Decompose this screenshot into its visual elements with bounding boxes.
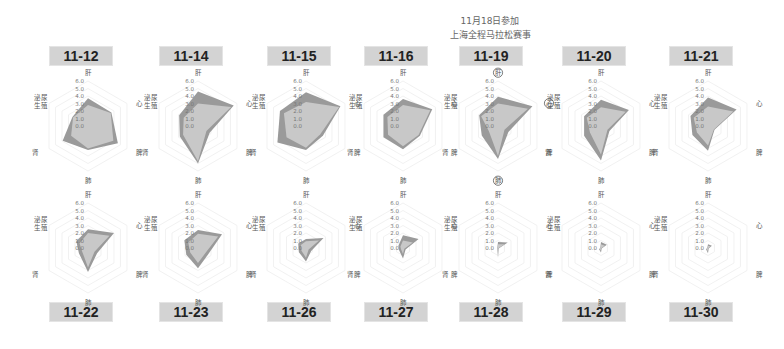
tick-label: 2.0 [695,108,704,114]
axis-label: 肺 [85,177,92,185]
tick-label: 4.0 [588,215,597,221]
axis-label-urogenital: 泌尿 [252,93,266,102]
axis-label: 肝 [400,69,407,77]
axis-label: 肺 [495,177,502,185]
axis-label-urogenital: 生殖 [144,223,158,232]
tick-label: 6.0 [588,78,597,84]
radar-chart: 6.05.04.03.02.01.00.0肝心脾肺肾泌尿生殖 [545,188,657,313]
axis-label: 肾 [142,148,149,157]
tick-label: 4.0 [185,215,194,221]
axis-label: 肝 [195,191,202,199]
axis-label: 肾 [545,148,552,157]
tick-label: 2.0 [695,230,704,236]
tick-label: 6.0 [75,78,84,84]
axis-label: 肝 [303,191,310,199]
annotation-line-2: 上海全程马拉松赛事 [430,28,550,42]
tick-label: 5.0 [588,86,597,92]
tick-label: 5.0 [695,86,704,92]
axis-label: 肝 [400,191,407,199]
panel-date-title: 11-21 [669,46,733,66]
radar-chart: 6.05.04.03.02.01.00.0肝心脾肺肾泌尿生殖 [142,188,254,313]
tick-label: 0.0 [75,245,84,251]
radar-panel: 11-286.05.04.03.02.01.00.0肝心脾肺肾泌尿生殖 [442,190,554,349]
tick-label: 5.0 [185,208,194,214]
axis-label-urogenital: 泌尿 [349,93,363,102]
tick-label: 6.0 [485,78,494,84]
panel-date-title: 11-15 [267,46,331,66]
tick-label: 1.0 [695,116,704,122]
axis-label: 心 [756,222,763,230]
axis-label-urogenital: 泌尿 [444,215,458,224]
tick-label: 3.0 [485,223,494,229]
tick-label: 3.0 [485,101,494,107]
axis-label-urogenital: 泌尿 [654,215,668,224]
axis-label-urogenital: 泌尿 [252,215,266,224]
tick-label: 3.0 [695,223,704,229]
tick-label: 1.0 [390,238,399,244]
radar-chart: 6.05.04.03.02.01.00.0肝心脾肺肾泌尿生殖 [652,66,764,191]
panel-date-title: 11-20 [562,46,626,66]
axis-label: 肾 [250,270,257,279]
radar-chart: 6.05.04.03.02.01.00.0肝心脾肺肾泌尿生殖 [442,66,554,191]
radar-panel: 11-266.05.04.03.02.01.00.0肝心脾肺肾泌尿生殖 [250,190,362,349]
axis-label: 肺 [195,299,202,307]
tick-label: 3.0 [695,101,704,107]
tick-label: 4.0 [293,93,302,99]
axis-label: 肺 [400,299,407,307]
tick-label: 5.0 [588,208,597,214]
tick-label: 1.0 [588,238,597,244]
axis-label: 肾 [32,270,39,279]
tick-label: 5.0 [185,86,194,92]
axis-label: 肺 [85,299,92,307]
tick-label: 2.0 [185,230,194,236]
radar-chart: 6.05.04.03.02.01.00.0肝心脾肺肾泌尿生殖 [32,66,144,191]
tick-label: 2.0 [485,230,494,236]
radar-panel: 11-226.05.04.03.02.01.00.0肝心脾肺肾泌尿生殖 [32,190,144,349]
tick-label: 3.0 [390,223,399,229]
axis-label: 肝 [705,69,712,77]
tick-label: 3.0 [75,101,84,107]
tick-label: 0.0 [695,245,704,251]
tick-label: 5.0 [485,208,494,214]
tick-label: 4.0 [695,93,704,99]
tick-label: 1.0 [588,116,597,122]
axis-label-urogenital: 生殖 [252,223,266,232]
tick-label: 6.0 [695,78,704,84]
tick-label: 4.0 [390,93,399,99]
tick-label: 3.0 [75,223,84,229]
tick-label: 4.0 [185,93,194,99]
tick-label: 4.0 [588,93,597,99]
radar-chart: 6.05.04.03.02.01.00.0肝心脾肺肾泌尿生殖 [545,66,657,191]
tick-label: 6.0 [75,200,84,206]
axis-label-urogenital: 生殖 [252,101,266,110]
tick-label: 1.0 [75,116,84,122]
radar-panel: 11-306.05.04.03.02.01.00.0肝心脾肺肾泌尿生殖 [652,190,764,349]
axis-label: 肾 [347,148,354,157]
tick-label: 4.0 [75,93,84,99]
tick-label: 5.0 [390,86,399,92]
axis-label-urogenital: 生殖 [349,101,363,110]
tick-label: 1.0 [390,116,399,122]
radar-panel: 11-296.05.04.03.02.01.00.0肝心脾肺肾泌尿生殖 [545,190,657,349]
tick-label: 2.0 [185,108,194,114]
axis-label: 肺 [495,299,502,307]
tick-label: 0.0 [75,123,84,129]
tick-label: 6.0 [588,200,597,206]
tick-label: 1.0 [695,238,704,244]
tick-label: 0.0 [695,123,704,129]
tick-label: 0.0 [390,245,399,251]
tick-label: 3.0 [588,223,597,229]
axis-label-urogenital: 泌尿 [547,215,561,224]
tick-label: 6.0 [485,200,494,206]
panel-date-title: 11-12 [49,46,113,66]
tick-label: 5.0 [75,208,84,214]
axis-label: 肾 [652,148,659,157]
axis-label-urogenital: 泌尿 [547,93,561,102]
axis-label-urogenital: 泌尿 [654,93,668,102]
axis-label: 肝 [705,191,712,199]
axis-label: 肝 [598,69,605,77]
annotation-line-1: 11月18日参加 [430,14,550,28]
axis-label: 肺 [705,177,712,185]
axis-label: 肝 [495,191,502,199]
axis-label: 肾 [347,270,354,279]
